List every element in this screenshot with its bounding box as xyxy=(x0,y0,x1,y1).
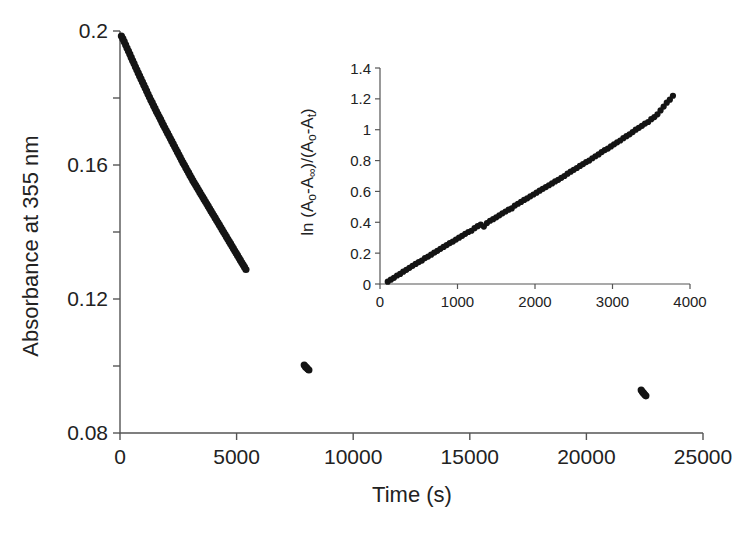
inset-y-tick-label: 0 xyxy=(363,276,371,293)
main-x-tick-label: 10000 xyxy=(324,445,382,468)
main-y-tick-label: 0.08 xyxy=(67,421,108,444)
inset-y-tick-label: 1.2 xyxy=(350,90,371,107)
inset-ylabel-mid1: -A xyxy=(298,176,317,194)
data-point xyxy=(305,366,312,373)
data-point xyxy=(670,93,676,99)
inset-ylabel-sub-inf: ∞ xyxy=(305,168,319,177)
inset-ylabel-suffix: ) xyxy=(298,108,317,114)
inset-ylabel-mid2: )/(A xyxy=(298,140,317,168)
inset-y-tick-label: 1.4 xyxy=(350,60,371,77)
main-y-axis-title: Absorbance at 355 nm xyxy=(18,135,43,356)
inset-x-tick-label: 2000 xyxy=(518,293,551,310)
inset-y-tick-label: 0.4 xyxy=(350,214,371,231)
inset-y-tick-label: 0.2 xyxy=(350,245,371,262)
main-y-tick-label: 0.12 xyxy=(67,287,108,310)
inset-ylabel-prefix: ln (A xyxy=(298,200,317,236)
main-x-tick-label: 20000 xyxy=(557,445,615,468)
inset-ylabel-mid3: -A xyxy=(298,117,317,135)
main-x-axis-title: Time (s) xyxy=(372,482,452,507)
inset-y-tick-label: 0.8 xyxy=(350,152,371,169)
main-x-tick-label: 15000 xyxy=(441,445,499,468)
data-point xyxy=(642,392,649,399)
inset-x-tick-label: 1000 xyxy=(441,293,474,310)
main-y-tick-label: 0.16 xyxy=(67,153,108,176)
inset-x-tick-label: 3000 xyxy=(596,293,629,310)
inset-x-tick-label: 4000 xyxy=(673,293,706,310)
main-x-tick-label: 25000 xyxy=(674,445,732,468)
main-y-tick-label: 0.2 xyxy=(79,19,108,42)
inset-y-tick-label: 0.6 xyxy=(350,183,371,200)
figure-container: 0.080.120.160.2 050001000015000200002500… xyxy=(0,0,753,536)
inset-x-tick-label: 0 xyxy=(376,293,384,310)
data-point xyxy=(242,266,249,273)
main-x-tick-label: 0 xyxy=(114,445,126,468)
inset-y-tick-label: 1 xyxy=(363,121,371,138)
scientific-chart: 0.080.120.160.2 050001000015000200002500… xyxy=(0,0,753,536)
main-x-tick-label: 5000 xyxy=(213,445,260,468)
